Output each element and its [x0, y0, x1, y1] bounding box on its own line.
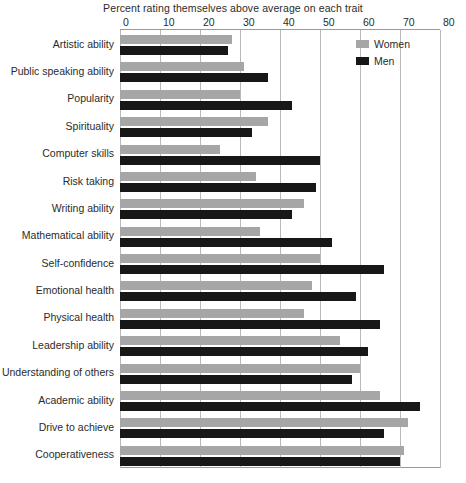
bar-women	[120, 35, 232, 44]
legend-item-women: Women	[356, 36, 410, 51]
bar-row: Emotional health	[120, 276, 440, 303]
category-label: Understanding of others	[2, 366, 114, 378]
x-tick-label-60: 60	[360, 16, 375, 28]
bar-women	[120, 336, 340, 345]
bar-row: Writing ability	[120, 194, 440, 221]
legend-label: Men	[374, 55, 394, 67]
bar-women	[120, 145, 220, 154]
category-label: Spirituality	[66, 120, 114, 132]
bar-men	[120, 210, 292, 219]
bar-women	[120, 281, 312, 290]
chart-title: Percent rating themselves above average …	[0, 2, 466, 14]
bar-women	[120, 418, 408, 427]
bar-men	[120, 429, 384, 438]
category-label: Mathematical ability	[22, 229, 114, 241]
x-tick-label-80: 80	[440, 16, 455, 28]
bar-row: Self-confidence	[120, 249, 440, 276]
bar-men	[120, 402, 420, 411]
chart-container: Percent rating themselves above average …	[0, 0, 466, 483]
bar-row: Computer skills	[120, 140, 440, 167]
bar-row: Cooperativeness	[120, 441, 440, 468]
legend-item-men: Men	[356, 53, 410, 68]
bar-men	[120, 238, 332, 247]
bar-men	[120, 292, 356, 301]
bar-women	[120, 309, 304, 318]
category-label: Self-confidence	[42, 257, 114, 269]
bar-women	[120, 199, 304, 208]
x-tick-label-40: 40	[280, 16, 295, 28]
x-tick-label-10: 10	[160, 16, 175, 28]
legend-swatch-women	[356, 40, 369, 48]
category-label: Academic ability	[38, 394, 114, 406]
bar-women	[120, 62, 244, 71]
bar-row: Popularity	[120, 85, 440, 112]
category-label: Drive to achieve	[39, 421, 114, 433]
bar-men	[120, 265, 384, 274]
category-label: Physical health	[43, 311, 114, 323]
x-tick-label-30: 30	[240, 16, 255, 28]
category-label: Writing ability	[52, 202, 114, 214]
bar-men	[120, 457, 400, 466]
bar-men	[120, 128, 252, 137]
bar-women	[120, 364, 360, 373]
legend-swatch-men	[356, 57, 369, 65]
bar-row: Risk taking	[120, 167, 440, 194]
bar-women	[120, 90, 240, 99]
bar-men	[120, 375, 352, 384]
bar-row: Drive to achieve	[120, 413, 440, 440]
x-tick-label-70: 70	[400, 16, 415, 28]
category-label: Leadership ability	[32, 339, 114, 351]
bar-row: Spirituality	[120, 112, 440, 139]
bar-row: Mathematical ability	[120, 222, 440, 249]
bar-women	[120, 172, 256, 181]
x-tick-label-0: 0	[120, 16, 129, 28]
bar-men	[120, 101, 292, 110]
x-tick-label-50: 50	[320, 16, 335, 28]
category-label: Risk taking	[63, 175, 114, 187]
plot-area: 01020304050607080 Artistic abilityPublic…	[120, 30, 440, 468]
bar-row: Physical health	[120, 304, 440, 331]
bar-men	[120, 320, 380, 329]
gridline-80	[440, 30, 441, 468]
bar-men	[120, 347, 368, 356]
bar-men	[120, 183, 316, 192]
bar-row: Leadership ability	[120, 331, 440, 358]
category-label: Artistic ability	[53, 38, 114, 50]
category-label: Computer skills	[42, 147, 114, 159]
category-label: Public speaking ability	[11, 65, 114, 77]
bar-row: Academic ability	[120, 386, 440, 413]
bar-women	[120, 391, 380, 400]
chart-legend: WomenMen	[356, 36, 410, 70]
bar-women	[120, 117, 268, 126]
x-tick-label-20: 20	[200, 16, 215, 28]
category-label: Popularity	[67, 92, 114, 104]
bar-row: Understanding of others	[120, 359, 440, 386]
bar-men	[120, 156, 320, 165]
category-label: Cooperativeness	[35, 448, 114, 460]
bar-women	[120, 446, 404, 455]
bar-men	[120, 46, 228, 55]
legend-label: Women	[374, 38, 410, 50]
category-label: Emotional health	[36, 284, 114, 296]
bar-women	[120, 254, 320, 263]
bar-women	[120, 227, 260, 236]
bar-men	[120, 73, 268, 82]
